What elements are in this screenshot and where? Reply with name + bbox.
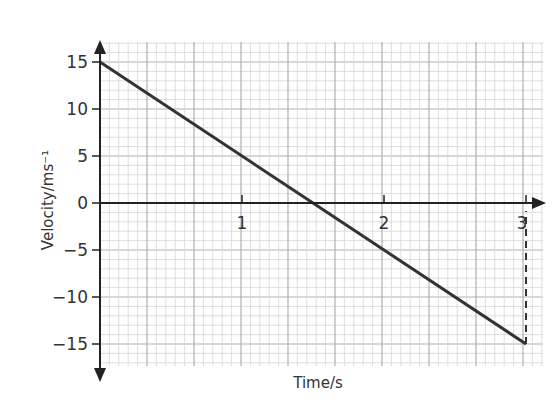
x-axis-arrow-icon	[532, 197, 546, 209]
y-tick-10: 10	[66, 99, 88, 119]
x-tick-1: 1	[237, 213, 248, 233]
y-axis-arrow-up-icon	[94, 40, 106, 54]
y-tick-15: 15	[66, 52, 88, 72]
y-tick-0: 0	[77, 193, 88, 213]
x-axis-title: Time/s	[292, 374, 343, 392]
x-tick-3: 3	[517, 213, 528, 233]
y-axis-title: Velocity/ms⁻¹	[39, 150, 57, 250]
y-axis-arrow-down-icon	[94, 368, 106, 382]
y-tick-5: 5	[77, 146, 88, 166]
y-tick-minus-15: −15	[52, 334, 88, 354]
velocity-time-graph: 15 10 5 0 −5 −10 −15 1 2 3 Time/s Veloci…	[0, 0, 560, 406]
y-tick-minus-5: −5	[63, 240, 88, 260]
x-tick-2: 2	[379, 213, 390, 233]
y-tick-minus-10: −10	[52, 287, 88, 307]
